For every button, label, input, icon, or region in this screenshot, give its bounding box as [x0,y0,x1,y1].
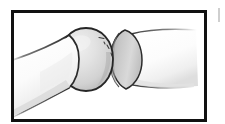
illustration-panel [0,0,225,124]
page-edge-mark [218,8,220,22]
ball-and-socket-joint-figure [0,0,225,124]
